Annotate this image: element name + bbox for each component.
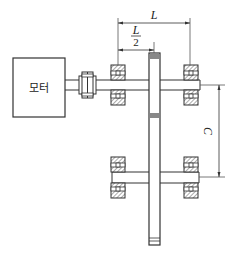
gear-drive-diagram: 모터 (0, 0, 235, 254)
lower-left-bearing (111, 157, 125, 198)
dimension-C: C (199, 85, 225, 177)
dimension-half-L-denominator: 2 (133, 36, 139, 48)
upper-left-bearing (111, 65, 125, 105)
motor: 모터 (13, 58, 65, 117)
dimension-half-L: L 2 (118, 23, 154, 53)
gear (149, 53, 160, 245)
coupling (79, 72, 96, 98)
motor-label: 모터 (29, 82, 49, 95)
dimension-L-label: L (150, 8, 158, 22)
lower-right-bearing (184, 157, 198, 198)
upper-right-bearing (184, 65, 198, 105)
dimension-C-label: C (201, 127, 215, 136)
dimension-half-L-numerator: L (132, 23, 140, 37)
